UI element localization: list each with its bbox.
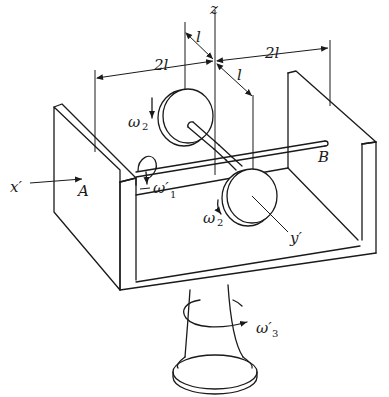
disk-top	[158, 89, 219, 149]
y-axis-label: y′	[289, 229, 302, 247]
shaft-ab	[136, 141, 328, 177]
dim-right-label: 2l	[264, 44, 280, 62]
omega1-leader	[140, 188, 150, 189]
omega1-arrowhead	[146, 172, 147, 184]
omega3-label: ω′	[256, 319, 272, 337]
x-axis-arrow	[30, 179, 82, 183]
point-b-label: B	[317, 148, 329, 166]
z-axis-label: z	[209, 0, 218, 18]
omega2-bottom-sub: 2	[217, 217, 223, 228]
gyroscope-diagram: z 2l 2l l l x′ A B y′ ω 2 ω′ 1 ω 2 ω′ 3	[0, 0, 389, 397]
dim-left-label: 2l	[153, 56, 169, 74]
omega1-sub: 1	[170, 189, 176, 200]
dim-upper-l-label: l	[196, 28, 201, 46]
dimension-lines	[95, 10, 330, 190]
omega2-bottom-label: ω	[203, 209, 215, 227]
omega2-top-sub: 2	[142, 121, 148, 132]
dim-lower-l-label: l	[237, 66, 242, 84]
point-a-label: A	[76, 182, 89, 200]
disk-bottom	[222, 157, 288, 232]
pedestal	[173, 285, 257, 394]
x-axis-label: x′	[10, 178, 22, 196]
omega3-rotation-arrow	[184, 300, 247, 327]
omega2-top-label: ω	[128, 113, 140, 131]
omega2-bottom-arrow	[218, 200, 221, 214]
omega1-label: ω′	[153, 179, 169, 197]
omega3-sub: 3	[272, 328, 278, 339]
hub	[214, 145, 232, 160]
